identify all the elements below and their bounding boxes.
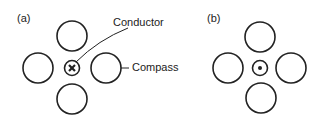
compass-top-a xyxy=(57,21,87,51)
panel-b-diagram xyxy=(213,22,306,113)
compass-label: Compass xyxy=(132,62,178,73)
conductor-label: Conductor xyxy=(113,17,164,28)
compass-bottom-a xyxy=(57,84,87,114)
cross-icon xyxy=(69,65,75,71)
dot-icon xyxy=(258,66,262,70)
compass-right-a xyxy=(91,53,121,83)
compass-right-b xyxy=(276,53,306,83)
panel-a-label: (a) xyxy=(17,13,30,24)
panel-b-label: (b) xyxy=(207,13,220,24)
compass-left-a xyxy=(23,53,53,83)
compass-left-b xyxy=(213,53,243,83)
compass-bottom-b xyxy=(246,83,276,113)
compass-top-b xyxy=(245,22,275,52)
panel-a-diagram xyxy=(23,21,129,114)
